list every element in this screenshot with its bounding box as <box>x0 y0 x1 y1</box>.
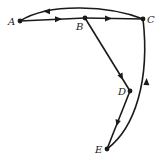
edge-d-to-e <box>107 91 130 149</box>
node-label-e: E <box>94 144 103 155</box>
arrow-left-icon <box>43 8 50 14</box>
node-label-c: C <box>147 14 155 25</box>
node-e <box>105 147 110 152</box>
arrow-up-icon <box>143 78 149 85</box>
node-label-d: D <box>117 86 126 97</box>
node-a <box>18 19 23 24</box>
arrow-right-icon <box>105 15 112 21</box>
node-c <box>141 17 146 22</box>
node-d <box>128 89 133 94</box>
edge-e-to-c <box>107 19 149 149</box>
node-b <box>83 16 88 21</box>
arrow-down-icon <box>118 73 124 81</box>
node-label-b: B <box>75 21 83 32</box>
edge-b-to-d <box>85 18 130 91</box>
directed-graph: A B C D E <box>0 0 162 160</box>
node-label-a: A <box>7 16 15 27</box>
arrow-right-icon <box>55 16 62 22</box>
